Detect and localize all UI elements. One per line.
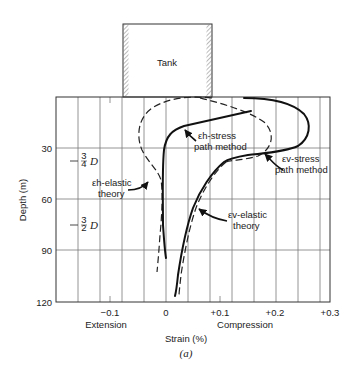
svg-text:εh-elastic: εh-elastic bbox=[92, 177, 132, 188]
svg-text:2: 2 bbox=[81, 222, 86, 233]
eh-elastic-curve bbox=[139, 97, 212, 272]
svg-text:D: D bbox=[89, 155, 98, 167]
svg-text:theory: theory bbox=[233, 220, 260, 231]
annotation-eh-elastic: εh-elastic theory bbox=[92, 177, 148, 199]
depth-marker-3-2-D: 3 2 D bbox=[70, 214, 98, 233]
y-tick-30: 30 bbox=[41, 143, 52, 154]
x-tick-0-2: +0.2 bbox=[266, 307, 285, 318]
depth-marker-3-4-D: 3 4 D bbox=[70, 150, 98, 169]
y-axis: 30 60 90 120 Depth (m) bbox=[17, 143, 52, 308]
x-tick-0-3: +0.3 bbox=[321, 307, 340, 318]
svg-text:path method: path method bbox=[194, 141, 247, 152]
tank: Tank bbox=[123, 24, 212, 97]
plot-frame bbox=[56, 97, 330, 302]
y-tick-60: 60 bbox=[41, 194, 52, 205]
y-axis-label: Depth (m) bbox=[17, 179, 28, 221]
svg-text:εh-stress: εh-stress bbox=[198, 130, 236, 141]
extension-label: Extension bbox=[85, 319, 127, 330]
svg-text:theory: theory bbox=[98, 188, 125, 199]
x-axis-label: Strain (%) bbox=[165, 333, 207, 344]
strain-depth-chart: Tank 30 60 90 120 Depth (m) 3 4 bbox=[0, 0, 357, 378]
tank-label: Tank bbox=[157, 57, 177, 68]
annotation-eh-stress-path: εh-stress path method bbox=[185, 130, 247, 152]
svg-text:εv-elastic: εv-elastic bbox=[228, 209, 267, 220]
compression-label: Compression bbox=[217, 319, 273, 330]
grid bbox=[56, 97, 330, 302]
annotation-ev-stress-path: εv-stress path method bbox=[265, 153, 328, 175]
y-tick-90: 90 bbox=[41, 245, 52, 256]
svg-text:path method: path method bbox=[275, 164, 328, 175]
x-tick-0-1: +0.1 bbox=[211, 307, 230, 318]
curves bbox=[139, 97, 309, 296]
ev-stress-path-curve bbox=[175, 98, 309, 296]
x-axis: −0.1 0 +0.1 +0.2 +0.3 Extension Compress… bbox=[85, 307, 339, 360]
figure-label: (a) bbox=[180, 347, 193, 360]
y-tick-120: 120 bbox=[36, 297, 52, 308]
svg-text:4: 4 bbox=[81, 158, 86, 169]
x-tick-0: 0 bbox=[163, 307, 168, 318]
annotation-ev-elastic: εv-elastic theory bbox=[199, 209, 267, 231]
x-tick-neg-0-1: −0.1 bbox=[101, 307, 120, 318]
svg-text:D: D bbox=[89, 219, 98, 231]
svg-text:εv-stress: εv-stress bbox=[282, 153, 320, 164]
